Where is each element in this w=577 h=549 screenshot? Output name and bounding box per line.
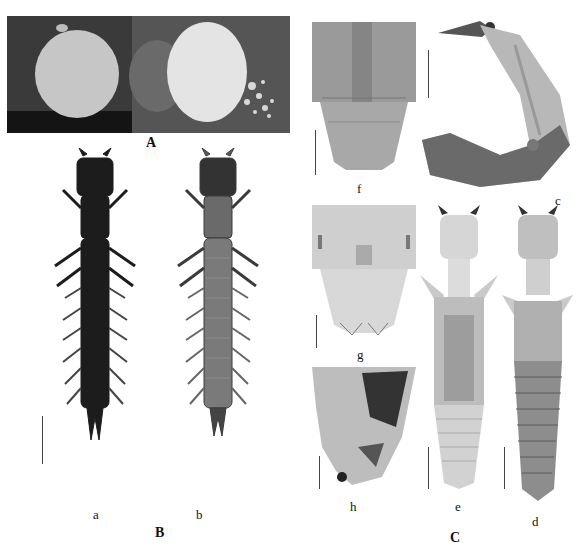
clipped-caption <box>0 0 300 4</box>
scale-bar-e <box>428 447 429 489</box>
subpanel-label-d: d <box>532 515 539 528</box>
panel-a-photo <box>7 16 290 133</box>
pupa-apex-lateral-photo <box>312 367 416 487</box>
scale-bar-h <box>319 456 320 489</box>
subpanel-label-g: g <box>357 348 364 361</box>
larva-ventral-photo <box>158 148 278 448</box>
pupa-dorsal-photo <box>500 205 575 505</box>
pupa-apex-dorsal-photo <box>312 22 416 172</box>
subpanel-label-a: a <box>93 508 99 521</box>
larva-dorsal-photo <box>35 148 155 448</box>
pupa-ventral-photo <box>418 205 500 495</box>
pupa-apex-ventral-photo <box>312 205 416 345</box>
scale-bar-g <box>316 315 317 348</box>
subpanel-label-h: h <box>350 500 357 513</box>
subpanel-label-f: f <box>357 182 361 195</box>
panel-label-b: B <box>155 526 164 540</box>
pupa-lateral-photo <box>420 15 570 190</box>
scale-bar-b <box>42 416 43 464</box>
scale-bar-f <box>315 130 316 175</box>
subpanel-label-b: b <box>196 508 203 521</box>
panel-label-c: C <box>450 531 460 545</box>
subpanel-label-e: e <box>455 500 461 513</box>
scale-bar-d <box>504 447 505 489</box>
scale-bar-c <box>428 50 429 98</box>
